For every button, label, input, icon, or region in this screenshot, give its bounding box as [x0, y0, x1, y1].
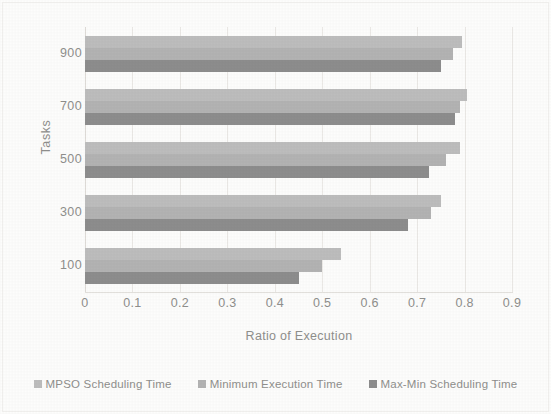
bar-700-series-2[interactable]	[85, 113, 455, 125]
legend-item-1[interactable]: Minimum Execution Time	[198, 378, 343, 390]
bar-700-series-1[interactable]	[85, 101, 460, 113]
x-tick-label-4: 0.4	[253, 296, 297, 310]
bar-group-300	[85, 195, 512, 231]
x-tick-label-6: 0.6	[348, 296, 392, 310]
legend-swatch-icon-1	[198, 380, 206, 388]
plot-area	[85, 27, 512, 292]
chart-figure: Tasks 100300500700900 00.10.20.30.40.50.…	[0, 0, 551, 414]
x-tick-label-1: 0.1	[110, 296, 154, 310]
x-axis-tick-labels: 00.10.20.30.40.50.60.70.80.9	[85, 296, 513, 318]
chart-legend: MPSO Scheduling TimeMinimum Execution Ti…	[0, 378, 551, 390]
x-axis-title: Ratio of Execution	[85, 329, 513, 343]
legend-item-0[interactable]: MPSO Scheduling Time	[34, 378, 172, 390]
legend-label-2: Max-Min Scheduling Time	[381, 378, 518, 390]
bar-100-series-1[interactable]	[85, 260, 322, 272]
legend-label-1: Minimum Execution Time	[210, 378, 343, 390]
bar-100-series-2[interactable]	[85, 272, 299, 284]
legend-swatch-icon-0	[34, 380, 42, 388]
bar-100-series-0[interactable]	[85, 248, 341, 260]
y-tick-label-500: 500	[36, 152, 82, 166]
bar-group-100	[85, 248, 512, 284]
gridline-x-9	[512, 27, 513, 292]
x-tick-label-2: 0.2	[158, 296, 202, 310]
bar-700-series-0[interactable]	[85, 89, 467, 101]
bar-500-series-2[interactable]	[85, 166, 429, 178]
bar-group-900	[85, 36, 512, 72]
y-tick-label-300: 300	[36, 205, 82, 219]
bar-900-series-2[interactable]	[85, 60, 441, 72]
bar-300-series-2[interactable]	[85, 219, 408, 231]
legend-swatch-icon-2	[369, 380, 377, 388]
bar-500-series-0[interactable]	[85, 142, 460, 154]
bar-group-700	[85, 89, 512, 125]
bar-300-series-0[interactable]	[85, 195, 441, 207]
x-tick-label-9: 0.9	[490, 296, 534, 310]
bar-900-series-0[interactable]	[85, 36, 462, 48]
bar-300-series-1[interactable]	[85, 207, 431, 219]
x-tick-label-3: 0.3	[205, 296, 249, 310]
x-tick-label-8: 0.8	[443, 296, 487, 310]
y-tick-label-100: 100	[36, 258, 82, 272]
legend-item-2[interactable]: Max-Min Scheduling Time	[369, 378, 518, 390]
y-axis-tick-labels: 100300500700900	[22, 27, 82, 292]
legend-label-0: MPSO Scheduling Time	[46, 378, 172, 390]
bar-500-series-1[interactable]	[85, 154, 446, 166]
x-tick-label-7: 0.7	[395, 296, 439, 310]
x-axis-line	[85, 292, 513, 293]
x-tick-label-5: 0.5	[300, 296, 344, 310]
y-tick-label-700: 700	[36, 99, 82, 113]
bar-group-500	[85, 142, 512, 178]
x-tick-label-0: 0	[63, 296, 107, 310]
y-tick-label-900: 900	[36, 46, 82, 60]
bar-900-series-1[interactable]	[85, 48, 453, 60]
